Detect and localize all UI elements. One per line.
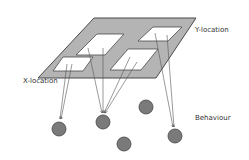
behaviour-node-1 [52, 122, 66, 136]
behaviour-label: Behaviour [195, 114, 231, 122]
x-location-label: X-location [23, 77, 58, 85]
y-location-label: Y-location [195, 26, 229, 34]
behaviour-nodes [52, 100, 182, 151]
behaviour-node-4 [117, 137, 131, 151]
behaviour-node-5 [168, 129, 182, 143]
behaviour-node-2 [96, 115, 110, 129]
behaviour-node-3 [139, 100, 153, 114]
